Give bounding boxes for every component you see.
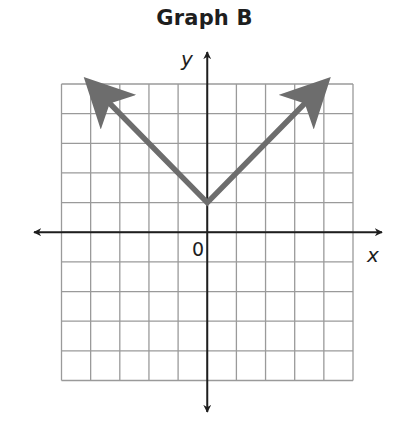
axes: [34, 52, 382, 412]
axis-labels: xy0: [180, 47, 379, 267]
origin-label: 0: [192, 238, 204, 260]
x-axis-label: x: [366, 243, 379, 267]
y-axis-label: y: [180, 47, 194, 71]
coordinate-plane: xy0: [0, 0, 409, 421]
